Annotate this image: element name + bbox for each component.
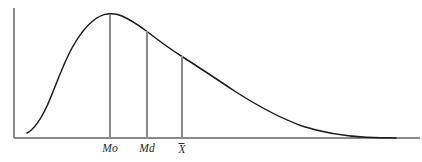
overbar-glyph: X xyxy=(178,143,185,156)
distribution-curve xyxy=(27,14,396,138)
axis-label-mode: Mo xyxy=(102,143,117,155)
marker-drop-lines xyxy=(110,15,182,138)
axis-label-median: Md xyxy=(139,143,154,155)
distribution-chart-canvas xyxy=(0,0,422,162)
axis-label-mean: X xyxy=(178,143,185,156)
distribution-figure: MoMdX xyxy=(0,0,422,162)
